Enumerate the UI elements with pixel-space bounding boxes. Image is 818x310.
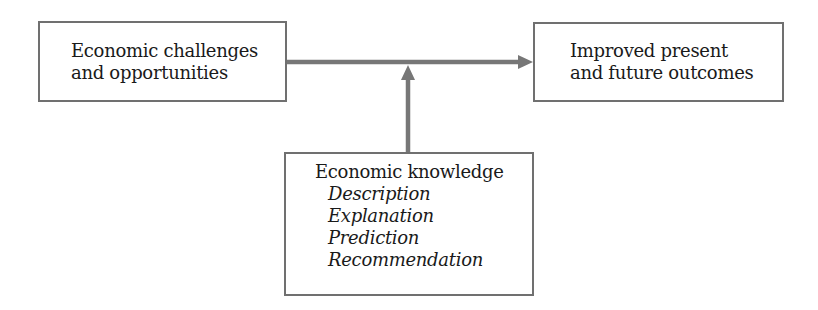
knowledge-item-recommendation: Recommendation [315,249,532,271]
box-label-line: Improved present [570,40,782,62]
economic-knowledge-box: Economic knowledge Description Explanati… [284,152,534,296]
knowledge-item-explanation: Explanation [315,205,532,227]
horizontal-arrow [287,55,533,69]
economic-challenges-box: Economic challenges and opportunities [38,21,287,102]
box-label-line: and future outcomes [570,62,782,84]
box-label-line: and opportunities [71,62,285,84]
improved-outcomes-box: Improved present and future outcomes [533,22,784,102]
knowledge-item-prediction: Prediction [315,227,532,249]
knowledge-title: Economic knowledge [315,161,532,183]
knowledge-item-description: Description [315,183,532,205]
box-label-line: Economic challenges [71,40,285,62]
vertical-arrow [401,65,415,152]
